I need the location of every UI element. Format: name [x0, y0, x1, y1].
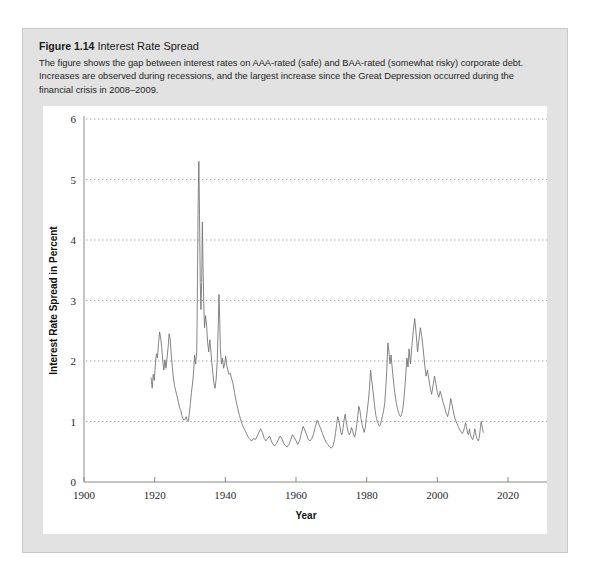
figure-caption-area: Figure 1.14 Interest Rate Spread The fig… — [39, 39, 551, 97]
y-tick-label-6: 6 — [71, 113, 77, 125]
figure-title: Figure 1.14 Interest Rate Spread — [39, 39, 551, 53]
x-axis-title: Year — [295, 510, 316, 521]
x-tick-label-2020: 2020 — [497, 489, 520, 501]
y-tick-label-4: 4 — [71, 234, 77, 246]
x-tick-label-1900: 1900 — [73, 489, 96, 501]
y-tick-label-2: 2 — [71, 355, 77, 367]
gridlines — [86, 119, 547, 422]
x-tick-label-1920: 1920 — [144, 489, 167, 501]
plot-card: 01234561900192019401960198020002020 Year… — [43, 106, 547, 534]
x-tick-label-1940: 1940 — [214, 489, 237, 501]
figure-caption-text: The figure shows the gap between interes… — [39, 57, 539, 97]
y-tick-label-3: 3 — [71, 295, 77, 307]
axis-titles: YearInterest Rate Spread in Percent — [48, 226, 317, 521]
y-tick-label-1: 1 — [71, 416, 77, 428]
x-tick-label-1960: 1960 — [285, 489, 308, 501]
figure-container: Figure 1.14 Interest Rate Spread The fig… — [22, 28, 568, 553]
x-tick-label-2000: 2000 — [426, 489, 449, 501]
tick-labels: 01234561900192019401960198020002020 — [71, 113, 520, 501]
series-lines — [151, 161, 483, 448]
interest-rate-spread-chart: 01234561900192019401960198020002020 Year… — [43, 106, 547, 534]
figure-title-text: Interest Rate Spread — [97, 40, 199, 52]
figure-label: Figure — [39, 40, 71, 52]
x-tick-label-1980: 1980 — [356, 489, 379, 501]
y-axis-title: Interest Rate Spread in Percent — [48, 226, 59, 375]
series-line-0 — [151, 161, 483, 448]
figure-number: 1.14 — [74, 40, 94, 52]
y-tick-label-0: 0 — [71, 476, 77, 488]
y-tick-label-5: 5 — [71, 174, 77, 186]
